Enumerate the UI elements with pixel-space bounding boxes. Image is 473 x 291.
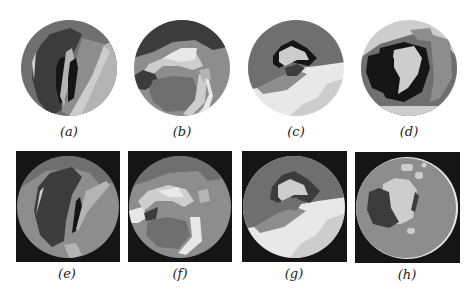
caption-h: (h) — [377, 267, 437, 282]
panel-f-image — [128, 151, 232, 262]
caption-a: (a) — [39, 124, 99, 139]
caption-g: (g) — [264, 266, 324, 281]
panel-c-image — [247, 18, 345, 118]
caption-b: (b) — [152, 124, 212, 139]
caption-c: (c) — [266, 124, 326, 139]
panel-d-image — [360, 18, 458, 118]
caption-f: (f) — [150, 266, 210, 281]
panel-g-image — [242, 151, 347, 262]
panel-e-image — [16, 151, 120, 262]
caption-d: (d) — [379, 124, 439, 139]
caption-e: (e) — [37, 266, 97, 281]
panel-h-image — [355, 152, 460, 263]
panel-a-image — [20, 18, 118, 118]
panel-b-image — [133, 18, 231, 118]
